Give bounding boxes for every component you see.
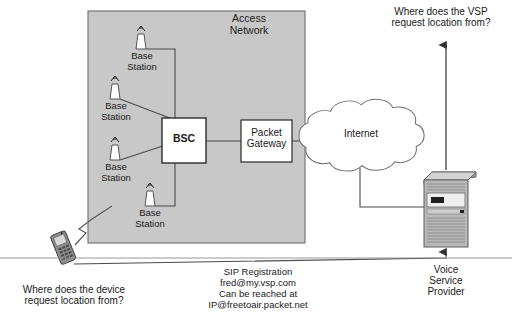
bsc-label[interactable]: BSC [162,133,206,145]
base-station-label-1: Base Station [112,51,172,72]
internet-label: Internet [331,128,391,139]
access-network-label: Access Network [213,13,285,37]
base-station-label-4: Base Station [120,208,180,229]
internet-server-link [360,168,424,207]
diagram-canvas: Access Network Base Station Base Station… [0,0,512,330]
sip-reach-address: IP@freetoair.packet.net [178,300,338,311]
device-question-label: Where does the device request location f… [4,284,144,306]
base-station-label-3: Base Station [86,162,146,183]
vsp-question-label: Where does the VSP request location from… [374,6,508,28]
packet-gateway-label[interactable]: Packet Gateway [241,127,292,149]
server-tower-graphic [424,172,476,247]
base-station-label-2: Base Station [86,101,146,122]
voice-service-provider-label: Voice Service Provider [416,264,476,298]
mobile-phone-graphic [50,230,76,265]
